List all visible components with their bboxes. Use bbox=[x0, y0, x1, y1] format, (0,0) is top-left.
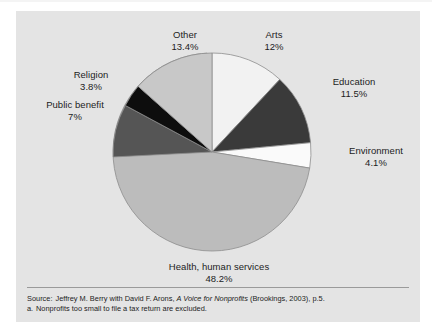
footnote-text: Nonprofits too small to file a tax retur… bbox=[36, 304, 207, 313]
pie-chart-svg bbox=[112, 52, 312, 252]
source-divider bbox=[27, 287, 409, 288]
source-citation-line: Source:Jeffrey M. Berry with David F. Ar… bbox=[27, 294, 411, 304]
slice-label-health-value: 48.2% bbox=[134, 273, 304, 285]
slice-label-other-value: 13.4% bbox=[148, 41, 222, 53]
slice-label-other: Other 13.4% bbox=[148, 29, 222, 52]
pie-chart-stage: Other 13.4% Arts 12% Education 11.5% Env… bbox=[16, 11, 420, 286]
source-lead-label: Source: bbox=[27, 294, 52, 303]
slice-label-health-name: Health, human services bbox=[134, 261, 304, 273]
slice-label-public-benefit-name: Public benefit bbox=[32, 99, 118, 111]
figure-container: Other 13.4% Arts 12% Education 11.5% Env… bbox=[0, 0, 432, 332]
slice-label-education-name: Education bbox=[316, 76, 392, 88]
top-crop-rule bbox=[0, 0, 432, 2]
source-note-block: Source:Jeffrey M. Berry with David F. Ar… bbox=[27, 294, 411, 314]
slice-label-public-benefit: Public benefit 7% bbox=[32, 99, 118, 122]
slice-label-religion-name: Religion bbox=[60, 69, 122, 81]
slice-label-religion-value: 3.8% bbox=[60, 81, 122, 93]
slice-label-education: Education 11.5% bbox=[316, 76, 392, 99]
slice-label-religion: Religion 3.8% bbox=[60, 69, 122, 92]
source-citation-after: (Brookings, 2003), p.5. bbox=[250, 294, 325, 303]
footnote-marker: a. bbox=[27, 304, 36, 314]
slice-label-arts-value: 12% bbox=[244, 41, 304, 53]
slice-label-environment-value: 4.1% bbox=[334, 157, 418, 169]
slice-label-arts: Arts 12% bbox=[244, 29, 304, 52]
slice-label-environment-name: Environment bbox=[334, 145, 418, 157]
slice-label-education-value: 11.5% bbox=[316, 88, 392, 100]
slice-label-health: Health, human services 48.2% bbox=[134, 261, 304, 284]
source-citation-before: Jeffrey M. Berry with David F. Arons, bbox=[55, 294, 174, 303]
source-citation-title: A Voice for Nonprofits bbox=[177, 294, 248, 303]
slice-label-environment: Environment 4.1% bbox=[334, 145, 418, 168]
slice-label-other-name: Other bbox=[148, 29, 222, 41]
chart-panel: Other 13.4% Arts 12% Education 11.5% Env… bbox=[16, 11, 420, 322]
source-footnote-line: a.Nonprofits too small to file a tax ret… bbox=[27, 304, 411, 314]
slice-label-public-benefit-value: 7% bbox=[32, 111, 118, 123]
slice-label-arts-name: Arts bbox=[244, 29, 304, 41]
